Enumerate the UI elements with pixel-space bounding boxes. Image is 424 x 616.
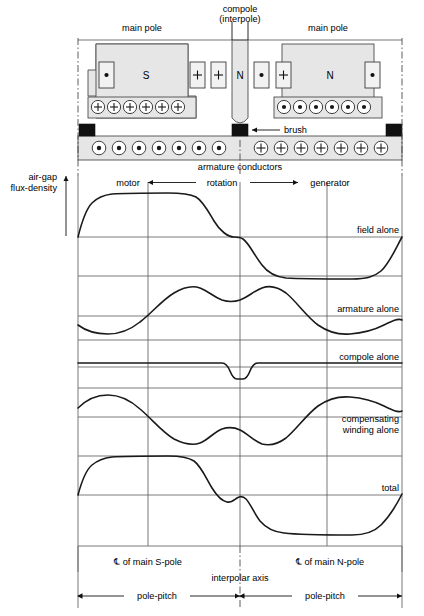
label-brush: brush (284, 125, 307, 135)
label-compole-line1: compole (223, 4, 258, 14)
panel-label-compensating-line1: compensating (342, 414, 399, 424)
brush-middle[interactable] (232, 124, 248, 136)
label-main-pole-right: main pole (308, 23, 348, 33)
figure-root: main pole compole (interpole) main pole … (0, 0, 424, 616)
label-motor: motor (116, 178, 140, 188)
label-pole-pitch-right: pole-pitch (305, 591, 345, 601)
label-centre-s-pole: ℄ of main S-pole (113, 557, 182, 567)
y-axis-group: air-gap flux-density (11, 172, 66, 236)
direction-row: motor rotation generator (116, 178, 349, 188)
bottom-label-row: ℄ of main S-pole ℄ of main N-pole interp… (113, 557, 364, 583)
label-pole-n-main: N (326, 70, 333, 81)
pole-pitch-dimension-row: pole-pitch pole-pitch (78, 546, 402, 608)
label-rotation: rotation (207, 178, 238, 188)
y-axis-label-line2: flux-density (11, 183, 58, 193)
panel-label-compole-alone: compole alone (339, 352, 399, 362)
y-axis-label-line1: air-gap (28, 172, 57, 182)
dot-mark-icon (104, 73, 108, 77)
dot-mark-icon (259, 73, 263, 77)
label-centre-n-pole: ℄ of main N-pole (295, 557, 364, 567)
label-pole-pitch-left: pole-pitch (137, 591, 177, 601)
label-generator: generator (310, 178, 349, 188)
label-pole-s: S (143, 70, 150, 81)
compole-body (232, 40, 248, 123)
panel-label-field-alone: field alone (357, 225, 399, 235)
label-pole-n-compole: N (236, 70, 243, 81)
label-compole-line2: (interpole) (219, 14, 260, 24)
dc-machine-flux-diagram: main pole compole (interpole) main pole … (0, 0, 424, 616)
panel-label-compensating-line2: winding alone (342, 425, 399, 435)
label-main-pole-left: main pole (122, 23, 162, 33)
panel-label-total: total (382, 483, 399, 493)
brush-left[interactable] (79, 124, 95, 136)
dot-mark-icon (370, 73, 374, 77)
brush-right[interactable] (386, 124, 402, 136)
panel-label-armature-alone: armature alone (337, 304, 399, 314)
